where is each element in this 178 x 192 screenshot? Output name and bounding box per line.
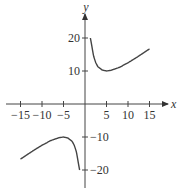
axes [6,14,168,188]
x-tick-label: −10 [33,108,52,122]
x-tick-label: 5 [104,108,110,122]
y-tick-label: 20 [68,31,80,45]
function-graph: −15−10−5510152010−10−20xy [0,0,178,192]
labels: −15−10−5510152010−10−20xy [11,0,177,177]
x-tick-label: 15 [144,108,156,122]
left-branch-curve [21,137,80,170]
x-tick-label: 10 [122,108,134,122]
x-tick-label: −15 [11,108,30,122]
right-branch-curve [90,38,149,71]
y-tick-label: −10 [90,130,109,144]
y-tick-label: 10 [68,64,80,78]
x-tick-label: −5 [57,108,70,122]
y-tick-label: −20 [90,163,109,177]
y-axis-label: y [82,0,89,14]
x-axis-label: x [170,97,177,111]
